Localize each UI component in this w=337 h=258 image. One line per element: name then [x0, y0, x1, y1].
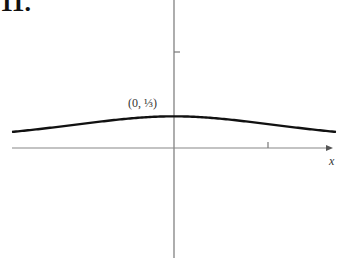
x-axis-label: x — [328, 154, 335, 168]
x-axis-arrow-icon — [326, 145, 333, 151]
peak-point-label: (0, ⅓) — [128, 96, 157, 110]
function-graph: x (0, ⅓) — [0, 0, 337, 258]
